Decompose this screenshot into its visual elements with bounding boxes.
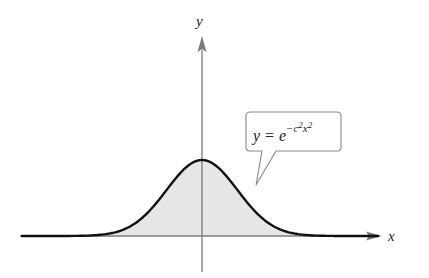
gaussian-figure: x y y = e−c2x2 <box>0 0 429 278</box>
y-axis-arrow-icon <box>198 36 207 52</box>
x-axis-label: x <box>387 228 395 244</box>
shaded-area <box>22 160 378 236</box>
y-axis-label: y <box>194 13 203 29</box>
equation-callout: y = e−c2x2 <box>246 112 341 185</box>
